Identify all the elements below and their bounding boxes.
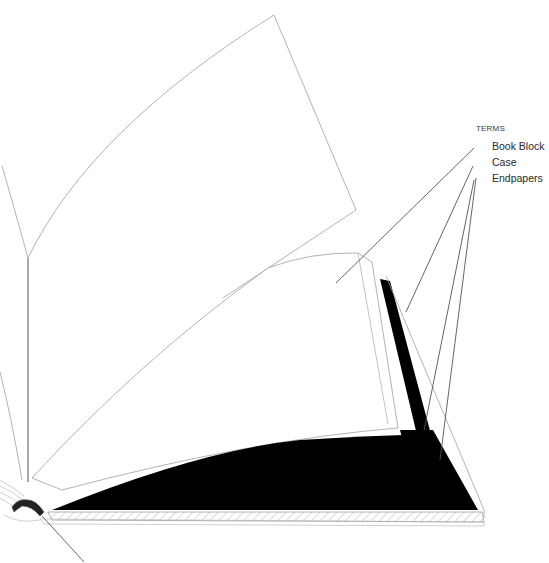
legend-title: TERMS	[476, 124, 545, 133]
leader-endpapers-1	[440, 178, 476, 460]
leader-case	[406, 166, 473, 312]
left-page-outline	[2, 166, 28, 258]
leader-spine	[42, 516, 84, 562]
flying-page	[28, 15, 356, 298]
legend-item-case: Case	[492, 154, 545, 170]
book-anatomy-diagram	[0, 0, 549, 563]
leader-book-block	[336, 148, 474, 283]
terms-legend: TERMS Book Block Case Endpapers	[476, 124, 545, 186]
legend-item-book-block: Book Block	[492, 138, 545, 154]
legend-item-endpapers: Endpapers	[492, 170, 545, 186]
left-page-outline-2	[0, 372, 22, 480]
spine-hinge	[12, 500, 44, 516]
